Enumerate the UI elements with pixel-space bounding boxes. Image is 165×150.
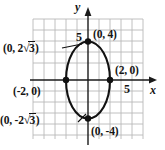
y-axis-arrow	[85, 7, 92, 16]
label-upper-focus-open: (0, 2	[3, 42, 23, 54]
y-tick-label-5: 5	[76, 31, 82, 43]
y-axis-label: y	[75, 1, 80, 13]
graph-figure: 5 5 y x (0, 4) (0, -4) (-2, 0) (2, 0) (0…	[0, 0, 165, 150]
x-axis	[30, 77, 157, 84]
label-lower-focus-open: (0, -2	[0, 114, 24, 126]
point-bottom-vertex	[85, 115, 91, 121]
label-upper-focus-close: )	[35, 42, 39, 54]
point-left-vertex	[63, 77, 69, 83]
label-lower-focus-close: )	[36, 114, 40, 126]
label-left-vertex: (-2, 0)	[13, 86, 40, 98]
x-axis-label: x	[150, 84, 156, 96]
label-right-vertex: (2, 0)	[115, 65, 139, 77]
point-top-vertex	[85, 38, 91, 44]
point-right-vertex	[107, 77, 113, 83]
label-lower-focus: (0, -2√3)	[0, 114, 39, 127]
label-top-vertex: (0, 4)	[93, 29, 117, 41]
coordinate-plane	[0, 0, 165, 150]
x-tick-label-5: 5	[124, 83, 130, 95]
label-bottom-vertex: (0, -4)	[91, 126, 118, 138]
label-upper-focus: (0, 2√3)	[3, 42, 39, 55]
